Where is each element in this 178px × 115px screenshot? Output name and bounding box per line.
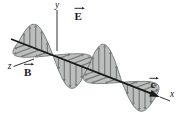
x-axis-label: x bbox=[169, 89, 175, 99]
b-field-label: B bbox=[24, 66, 32, 78]
em-wave-figure: y z x E B c bbox=[0, 0, 178, 115]
c-vector-label: c bbox=[151, 78, 156, 90]
em-wave-diagram: y z x E B c bbox=[0, 0, 178, 115]
e-field-label: E bbox=[75, 10, 82, 22]
y-axis-label: y bbox=[54, 0, 60, 10]
z-axis-label: z bbox=[7, 61, 12, 71]
